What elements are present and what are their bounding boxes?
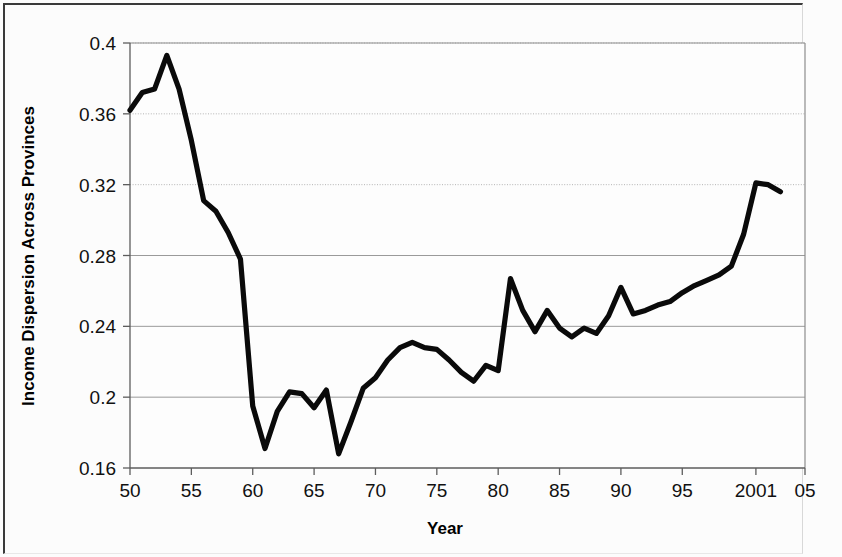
- x-tick-label: 55: [181, 480, 202, 501]
- figure-container: 0.160.20.240.280.320.360.4 5055606570758…: [0, 0, 842, 557]
- y-tick-label: 0.32: [79, 175, 116, 196]
- chart-area: 0.160.20.240.280.320.360.4 5055606570758…: [0, 0, 842, 557]
- x-tick-label: 80: [488, 480, 509, 501]
- x-tick-label: 75: [426, 480, 447, 501]
- x-tick-label: 65: [304, 480, 325, 501]
- x-axis-tick-labels: 50556065707580859095200105: [119, 480, 815, 501]
- x-axis-tick-marks: [130, 468, 805, 475]
- x-tick-label: 70: [365, 480, 386, 501]
- x-tick-label: 60: [242, 480, 263, 501]
- line-chart: 0.160.20.240.280.320.360.4 5055606570758…: [0, 0, 842, 557]
- x-tick-label: 2001: [735, 480, 777, 501]
- y-axis-title: Income Dispersion Across Provinces: [19, 106, 38, 406]
- x-tick-label: 05: [794, 480, 815, 501]
- x-tick-label: 50: [119, 480, 140, 501]
- x-tick-label: 95: [672, 480, 693, 501]
- y-axis-tick-marks: [123, 43, 130, 468]
- y-tick-label: 0.4: [90, 33, 117, 54]
- x-tick-label: 90: [610, 480, 631, 501]
- y-tick-label: 0.36: [79, 104, 116, 125]
- y-tick-label: 0.2: [90, 387, 116, 408]
- y-tick-label: 0.16: [79, 458, 116, 479]
- y-axis-tick-labels: 0.160.20.240.280.320.360.4: [79, 33, 116, 479]
- x-axis-title: Year: [427, 519, 463, 538]
- x-tick-label: 85: [549, 480, 570, 501]
- y-tick-label: 0.24: [79, 316, 116, 337]
- y-tick-label: 0.28: [79, 246, 116, 267]
